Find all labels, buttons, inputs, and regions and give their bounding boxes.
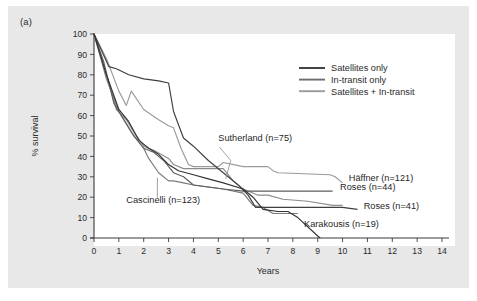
y-tick-label: 10: [77, 213, 87, 223]
y-tick-label: 60: [77, 111, 87, 121]
x-tick-label: 10: [338, 246, 348, 256]
series-line: [94, 34, 343, 205]
x-tick-label: 3: [166, 246, 171, 256]
legend-label: In-transit only: [331, 75, 387, 85]
figure-container: (a) 010203040506070809010001234567891011…: [8, 6, 469, 288]
x-axis-title: Years: [257, 266, 280, 276]
x-tick-label: 6: [241, 246, 246, 256]
annotation-label: Roses (n=41): [364, 201, 419, 211]
y-tick-label: 80: [77, 70, 87, 80]
survival-chart: 0102030405060708090100012345678910111213…: [8, 6, 469, 288]
y-tick-label: 0: [82, 233, 87, 243]
x-tick-label: 11: [363, 246, 372, 256]
x-axis-ticks: 01234567891011121314: [92, 238, 447, 256]
y-tick-label: 70: [77, 90, 87, 100]
y-tick-label: 100: [73, 29, 88, 39]
y-axis-ticks: 0102030405060708090100: [73, 29, 94, 243]
x-tick-label: 1: [116, 246, 121, 256]
series-line: [94, 34, 343, 183]
y-axis-title: % survival: [30, 115, 40, 156]
x-tick-label: 0: [92, 246, 97, 256]
series-line: [94, 34, 298, 214]
legend-label: Satellites only: [331, 63, 388, 73]
legend: Satellites onlyIn-transit onlySatellites…: [299, 63, 415, 96]
x-tick-label: 7: [266, 246, 271, 256]
y-tick-label: 30: [77, 172, 87, 182]
annotation-label: Cascinelli (n=123): [126, 195, 200, 205]
x-tick-label: 5: [216, 246, 221, 256]
x-tick-label: 4: [191, 246, 196, 256]
x-tick-label: 9: [315, 246, 320, 256]
series-line: [94, 34, 333, 191]
x-tick-label: 12: [388, 246, 398, 256]
x-tick-label: 13: [412, 246, 422, 256]
y-tick-label: 90: [77, 50, 87, 60]
legend-label: Satellites + In-transit: [331, 87, 415, 97]
y-tick-label: 20: [77, 192, 87, 202]
y-tick-label: 50: [77, 131, 87, 141]
x-tick-label: 2: [141, 246, 146, 256]
annotation-label: Roses (n=44): [340, 182, 395, 192]
x-tick-label: 8: [290, 246, 295, 256]
x-tick-label: 14: [437, 246, 447, 256]
annotation-label: Sutherland (n=75): [218, 133, 292, 143]
y-tick-label: 40: [77, 152, 87, 162]
annotation-label: Karakousis (n=19): [304, 219, 379, 229]
